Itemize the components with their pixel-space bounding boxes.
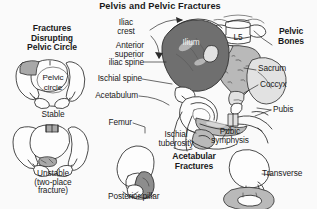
posterior-pillar-caption: Posterior pillar [108, 192, 188, 201]
label-iliac-crest: Iliac crest [104, 18, 148, 35]
label-ischial-tuberosity: Ischial tuberosity [152, 130, 200, 147]
label-anterior-superior-iliac-spine: Anterior superior iliac spine [88, 41, 144, 67]
label-acetabulum: Acetabulum [74, 91, 138, 100]
label-ilium: Ilium [175, 38, 207, 47]
acetabular-fractures-heading: Acetabular Fractures [162, 152, 226, 171]
left-panel-heading: Fractures Disrupting Pelvic Circle [6, 24, 98, 53]
stable-caption: Stable [18, 110, 88, 119]
transverse-caption: Transverse [262, 169, 317, 178]
transverse-fracture-illustration [224, 150, 275, 209]
pelvic-circle-inner-label: Pelvic circle [33, 73, 73, 92]
label-femur: Femur [100, 118, 132, 127]
label-ischial-spine: Ischial spine [78, 74, 142, 83]
label-l5-vertebra: L5 [228, 33, 248, 42]
pelvic-bones-heading: Pelvic Bones [268, 27, 314, 46]
pelvis-figure: Pelvis and Pelvic Fractures [0, 0, 317, 209]
label-pubic-symphysis: Pubic symphysis [204, 127, 256, 144]
label-pubis: Pubis [273, 105, 315, 114]
label-coccyx: Coccyx [260, 80, 312, 89]
unstable-caption: Unstable (two-place fracture) [13, 169, 93, 195]
label-sacrum: Sacrum [258, 64, 310, 73]
